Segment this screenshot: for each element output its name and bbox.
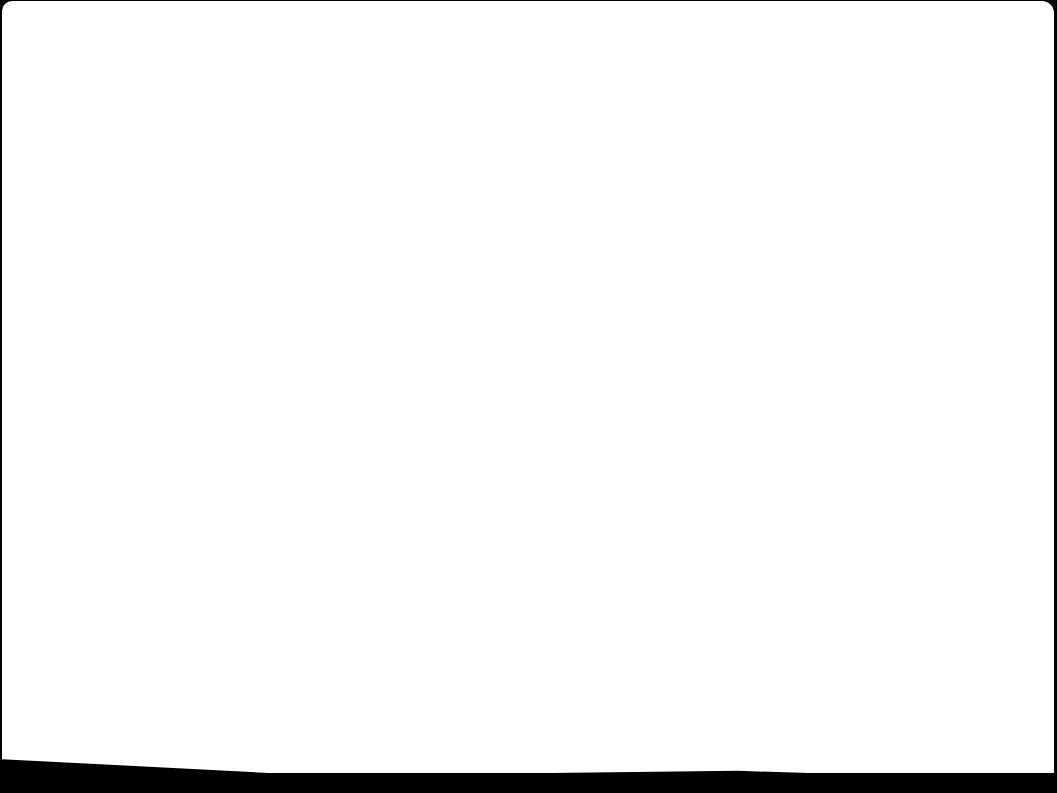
bottom-bezel (0, 773, 1057, 793)
display-frame (0, 0, 1057, 793)
blank-screen (2, 1, 1054, 781)
